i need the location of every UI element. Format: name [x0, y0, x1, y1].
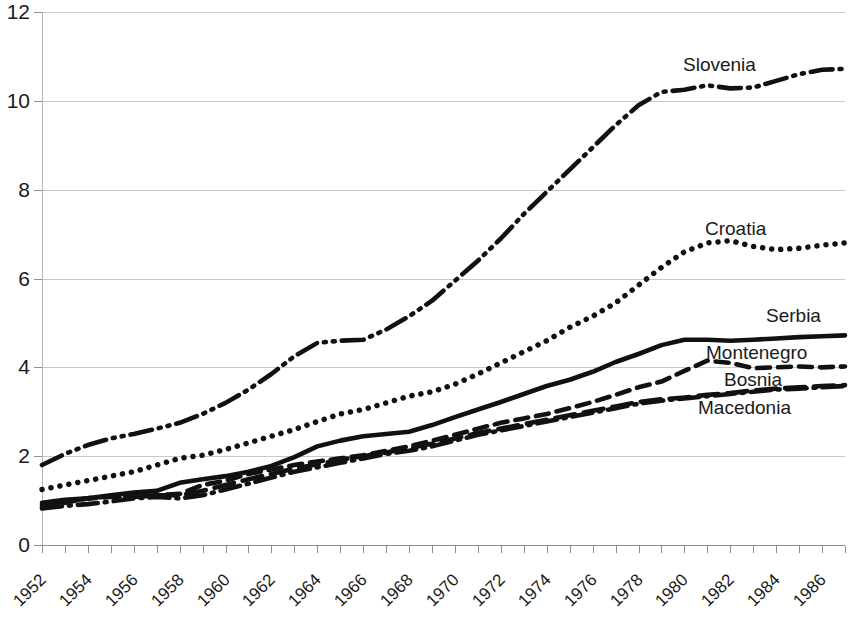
series-label-montenegro: Montenegro: [706, 343, 807, 362]
series-label-croatia: Croatia: [705, 219, 766, 238]
chart-root: 024681012 195219541956195819601962196419…: [0, 0, 848, 621]
series-label-slovenia: Slovenia: [683, 55, 756, 74]
series-label-serbia: Serbia: [766, 306, 821, 325]
series-label-bosnia: Bosnia: [724, 370, 782, 389]
series-layer: [0, 0, 848, 621]
series-label-macedonia: Macedonia: [698, 398, 791, 417]
series-line-croatia: [42, 241, 845, 490]
